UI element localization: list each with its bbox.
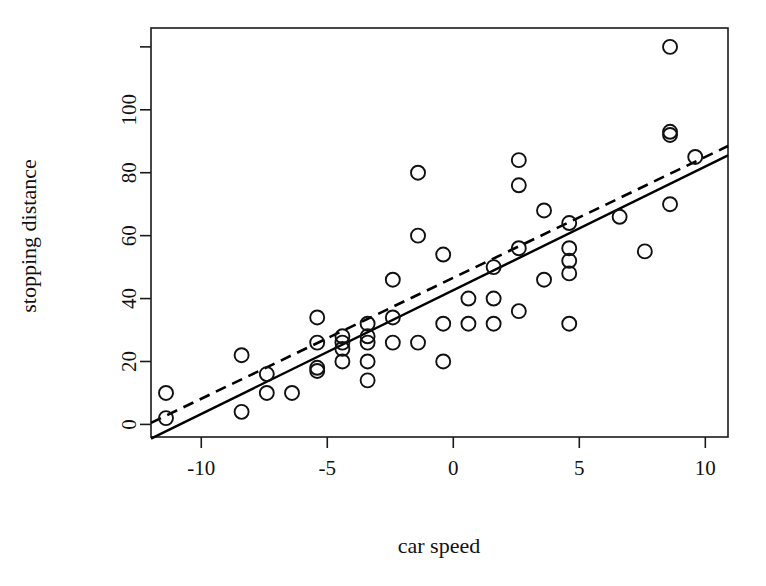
data-point bbox=[235, 348, 249, 362]
data-point bbox=[361, 354, 375, 368]
data-point bbox=[386, 273, 400, 287]
y-tick-label: 100 bbox=[117, 94, 141, 126]
data-point bbox=[436, 248, 450, 262]
data-point bbox=[310, 364, 324, 378]
y-tick-label: 20 bbox=[117, 351, 141, 372]
data-point bbox=[487, 317, 501, 331]
y-tick-label: 80 bbox=[117, 162, 141, 183]
data-point bbox=[310, 361, 324, 375]
data-point bbox=[663, 197, 677, 211]
x-tick-label: -5 bbox=[319, 456, 337, 480]
data-point bbox=[562, 317, 576, 331]
data-point bbox=[487, 292, 501, 306]
data-point bbox=[512, 304, 526, 318]
x-tick-label: 5 bbox=[574, 456, 585, 480]
robust-fit bbox=[151, 146, 728, 423]
scatter-plot: -10-50510 020406080100 car speed stoppin… bbox=[0, 0, 766, 586]
data-point bbox=[512, 178, 526, 192]
data-point bbox=[159, 386, 173, 400]
y-tick-label: 60 bbox=[117, 225, 141, 246]
data-point bbox=[235, 405, 249, 419]
data-point bbox=[562, 216, 576, 230]
data-point bbox=[285, 386, 299, 400]
plot-frame bbox=[151, 28, 728, 437]
data-point bbox=[361, 373, 375, 387]
data-point bbox=[512, 153, 526, 167]
data-point bbox=[436, 354, 450, 368]
data-point bbox=[461, 292, 475, 306]
figure-container: -10-50510 020406080100 car speed stoppin… bbox=[0, 0, 766, 586]
data-point bbox=[663, 40, 677, 54]
data-point bbox=[663, 125, 677, 139]
x-tick-label: 10 bbox=[695, 456, 716, 480]
data-point bbox=[260, 386, 274, 400]
data-points bbox=[159, 40, 702, 425]
data-point bbox=[310, 310, 324, 324]
x-tick-label: 0 bbox=[448, 456, 459, 480]
data-point bbox=[613, 210, 627, 224]
data-point bbox=[411, 336, 425, 350]
regression-lines bbox=[151, 146, 728, 439]
data-point bbox=[386, 336, 400, 350]
data-point bbox=[159, 411, 173, 425]
least-squares-fit bbox=[151, 155, 728, 438]
data-point bbox=[461, 317, 475, 331]
x-axis-title: car speed bbox=[398, 533, 480, 558]
data-point bbox=[537, 203, 551, 217]
y-axis-tick-labels: 020406080100 bbox=[117, 94, 141, 430]
data-point bbox=[537, 273, 551, 287]
y-axis-title: stopping distance bbox=[16, 159, 41, 312]
y-tick-label: 0 bbox=[117, 419, 141, 430]
x-axis-ticks bbox=[201, 437, 705, 448]
data-point bbox=[411, 229, 425, 243]
data-point bbox=[436, 317, 450, 331]
y-axis-ticks bbox=[140, 47, 151, 425]
data-point bbox=[638, 244, 652, 258]
x-axis-tick-labels: -10-50510 bbox=[187, 456, 716, 480]
y-tick-label: 40 bbox=[117, 288, 141, 309]
x-tick-label: -10 bbox=[187, 456, 215, 480]
data-point bbox=[260, 367, 274, 381]
data-point bbox=[663, 128, 677, 142]
data-point bbox=[411, 166, 425, 180]
